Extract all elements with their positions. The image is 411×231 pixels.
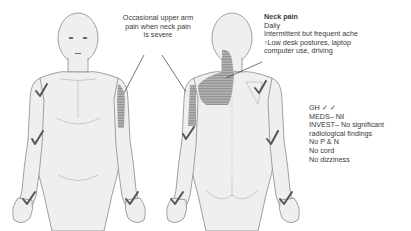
- arm-pain-leader-right: [162, 55, 186, 92]
- clinical-notes: GH ✓ ✓ MEDS– Nil INVEST– No significant …: [309, 104, 411, 164]
- arm-pain-annotation: Occasional upper arm pain when neck pain…: [104, 14, 212, 40]
- arm-pain-leader-left: [124, 55, 144, 93]
- head: [58, 13, 98, 63]
- neck-pain-annotation: Neck pain Daily Intermittent but frequen…: [264, 13, 410, 56]
